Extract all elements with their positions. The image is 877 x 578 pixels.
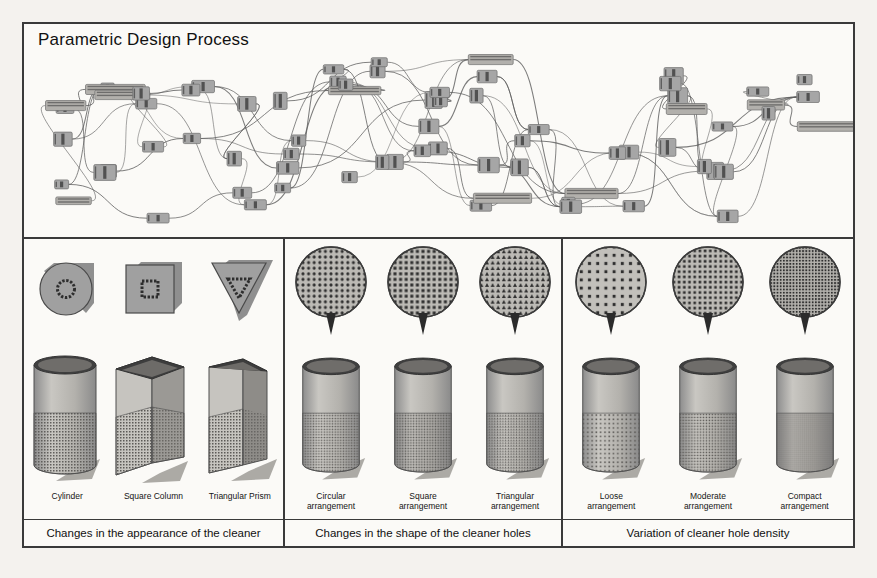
item-label: Circular arrangement	[285, 491, 376, 511]
shape-triangle-profile	[203, 253, 277, 327]
item-label-line1: Triangular Prism	[209, 491, 271, 501]
holeshape-swatch-row	[285, 243, 561, 337]
swatch-perforated-circle-compact	[763, 243, 847, 337]
holeshape-model-row	[285, 339, 561, 489]
panel-holeshape-body: Circular arrangement Square arrangement …	[285, 239, 561, 519]
model-cylinder	[26, 347, 104, 489]
panel-density-body: Loose arrangement Moderate arrangement C…	[563, 239, 853, 519]
item-label-line2: arrangement	[491, 501, 539, 511]
holeshape-label-row: Circular arrangement Square arrangement …	[285, 489, 561, 519]
density-swatch-row	[563, 243, 853, 337]
item-label-line1: Loose	[600, 491, 623, 501]
swatch-perforated-circle-square	[381, 243, 465, 337]
shape-circle-profile	[30, 253, 104, 327]
item-label-line1: Cylinder	[52, 491, 83, 501]
comparison-panels-row: Cylinder Square Column Triangular Prism …	[24, 239, 853, 546]
item-label-line2: arrangement	[587, 501, 635, 511]
panel-appearance-caption: Changes in the appearance of the cleaner	[24, 519, 283, 546]
item-label: Triangular Prism	[197, 491, 282, 501]
model-triangular-prism	[197, 347, 281, 489]
item-label-line1: Circular	[316, 491, 345, 501]
item-label-line2: arrangement	[399, 501, 447, 511]
item-label-line1: Moderate	[690, 491, 726, 501]
density-label-row: Loose arrangement Moderate arrangement C…	[563, 489, 853, 519]
appearance-swatch-row	[24, 243, 283, 337]
parametric-graph-panel: Parametric Design Process	[24, 24, 853, 239]
item-label: Square Column	[111, 491, 196, 501]
model-cylinder-round-holes	[293, 347, 369, 489]
figure-frame: Parametric Design Process	[22, 22, 855, 548]
node-graph-canvas	[24, 24, 853, 237]
swatch-perforated-circle-loose	[569, 243, 653, 337]
item-label-line1: Square	[409, 491, 436, 501]
panel-density-caption: Variation of cleaner hole density	[563, 519, 853, 546]
model-cylinder-loose	[573, 347, 649, 489]
panel-density: Loose arrangement Moderate arrangement C…	[561, 239, 853, 546]
panel-appearance-body: Cylinder Square Column Triangular Prism	[24, 239, 283, 519]
item-label-line1: Square Column	[124, 491, 183, 501]
item-label: Square arrangement	[377, 491, 468, 511]
panel-holeshape-caption: Changes in the shape of the cleaner hole…	[285, 519, 561, 546]
model-cylinder-moderate	[670, 347, 746, 489]
item-label-line1: Compact	[788, 491, 822, 501]
model-cylinder-triangle-holes	[477, 347, 553, 489]
item-label-line1: Triangular	[496, 491, 534, 501]
panel-holeshape: Circular arrangement Square arrangement …	[283, 239, 561, 546]
model-cylinder-compact	[767, 347, 843, 489]
graph-title: Parametric Design Process	[38, 30, 249, 50]
appearance-model-row	[24, 339, 283, 489]
swatch-perforated-circle-round	[289, 243, 373, 337]
model-square-column	[108, 347, 192, 489]
swatch-perforated-circle-triangle	[473, 243, 557, 337]
item-label: Compact arrangement	[757, 491, 853, 511]
appearance-label-row: Cylinder Square Column Triangular Prism	[24, 489, 283, 519]
swatch-perforated-circle-moderate	[666, 243, 750, 337]
item-label: Moderate arrangement	[660, 491, 756, 511]
panel-appearance: Cylinder Square Column Triangular Prism …	[24, 239, 283, 546]
item-label-line2: arrangement	[684, 501, 732, 511]
item-label: Cylinder	[24, 491, 109, 501]
item-label-line2: arrangement	[781, 501, 829, 511]
shape-square-profile	[116, 253, 190, 327]
item-label: Loose arrangement	[563, 491, 659, 511]
item-label-line2: arrangement	[307, 501, 355, 511]
model-cylinder-square-holes	[385, 347, 461, 489]
density-model-row	[563, 339, 853, 489]
item-label: Triangular arrangement	[469, 491, 560, 511]
